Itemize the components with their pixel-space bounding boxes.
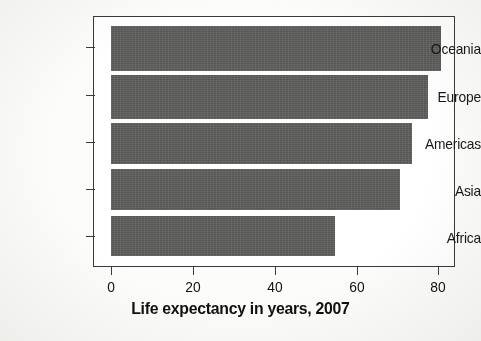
x-tick-60 (357, 267, 358, 275)
y-tick-asia (86, 189, 95, 190)
y-axis-label-americas: Americas (404, 135, 481, 152)
x-axis-title: Life expectancy in years, 2007 (0, 299, 481, 319)
y-tick-americas (86, 142, 95, 143)
y-axis-label-asia: Asia (404, 182, 481, 199)
bar-chart-figure: Oceania Europe Americas Asia Africa 0 20… (0, 0, 481, 341)
x-tick-40 (275, 267, 276, 275)
x-tick-80 (438, 267, 439, 275)
x-axis-label-40: 40 (267, 278, 282, 295)
y-tick-europe (86, 95, 95, 96)
bar-europe (111, 75, 428, 119)
y-tick-africa (86, 236, 95, 237)
bar-oceania (111, 26, 441, 71)
bar-americas (111, 123, 412, 164)
x-axis-label-20: 20 (185, 278, 200, 295)
y-tick-oceania (86, 47, 95, 48)
bar-asia (111, 169, 400, 210)
x-tick-20 (193, 267, 194, 275)
x-tick-0 (111, 267, 112, 275)
y-axis-label-africa: Africa (404, 229, 481, 246)
x-axis-label-60: 60 (349, 278, 364, 295)
y-axis-label-oceania: Oceania (404, 40, 481, 57)
y-axis-label-europe: Europe (404, 88, 481, 105)
bar-africa (111, 216, 335, 256)
x-axis-title-text: Life expectancy in years, 2007 (131, 299, 349, 319)
x-axis-label-80: 80 (430, 278, 445, 295)
x-axis-label-0: 0 (107, 278, 115, 295)
